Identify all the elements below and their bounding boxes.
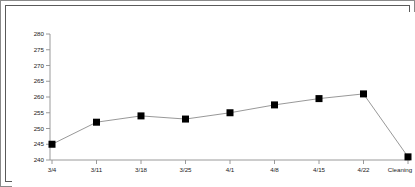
y-tick-group: 275: [34, 46, 50, 53]
x-tick-group: 4/8: [270, 160, 279, 173]
x-tick-group: 4/1: [226, 160, 235, 173]
x-tick-label: Cleaning: [388, 166, 413, 173]
x-tick-label: 4/15: [313, 166, 326, 173]
y-tick-label: 245: [34, 140, 45, 147]
x-tick-label: 4/22: [357, 166, 370, 173]
y-tick-label: 250: [34, 125, 45, 132]
y-tick-label: 255: [34, 109, 45, 116]
y-tick-label: 275: [34, 46, 45, 53]
y-tick-group: 270: [34, 62, 50, 69]
data-series: [49, 90, 412, 160]
data-point-marker: [138, 112, 145, 119]
x-tick-label: 3/4: [48, 166, 57, 173]
y-tick-group: 260: [34, 93, 50, 100]
data-point-marker: [405, 153, 412, 160]
x-tick-group: 4/15: [313, 160, 326, 173]
series-line: [52, 94, 408, 157]
y-tick-group: 265: [34, 77, 50, 84]
y-tick-label: 240: [34, 156, 45, 163]
y-tick-group: 245: [34, 140, 50, 147]
x-axis: 3/4 3/11 3/18 3/25: [48, 160, 413, 173]
y-tick-group: 240: [34, 156, 50, 163]
x-tick-label: 3/18: [135, 166, 148, 173]
y-tick-group: 280: [34, 30, 50, 37]
y-tick-label: 260: [34, 93, 45, 100]
chart-screenshot: 280 275 270 265: [0, 0, 415, 187]
y-tick-label: 280: [34, 30, 45, 37]
data-point-marker: [271, 101, 278, 108]
x-tick-label: 3/11: [91, 166, 103, 173]
y-tick-label: 265: [34, 77, 45, 84]
data-point-marker: [182, 116, 189, 123]
data-point-marker: [93, 119, 100, 126]
y-axis: 280 275 270 265: [34, 30, 50, 163]
x-tick-group: 3/25: [179, 160, 192, 173]
y-tick-group: 250: [34, 125, 50, 132]
x-tick-group: Cleaning: [388, 160, 413, 173]
x-tick-label: 4/8: [270, 166, 279, 173]
x-tick-group: 4/22: [357, 160, 370, 173]
x-tick-label: 3/25: [179, 166, 192, 173]
chart-object-border: 280 275 270 265: [5, 5, 410, 182]
x-tick-group: 3/4: [48, 160, 57, 173]
y-tick-label: 270: [34, 62, 45, 69]
data-point-marker: [360, 90, 367, 97]
x-tick-group: 3/18: [135, 160, 148, 173]
x-tick-group: 3/11: [91, 160, 103, 173]
x-tick-label: 4/1: [226, 166, 235, 173]
y-tick-group: 255: [34, 109, 50, 116]
data-point-marker: [227, 109, 234, 116]
plot-area: 280 275 270 265: [12, 12, 415, 187]
data-point-marker: [316, 95, 323, 102]
data-point-marker: [49, 141, 56, 148]
line-chart: 280 275 270 265: [12, 12, 415, 187]
